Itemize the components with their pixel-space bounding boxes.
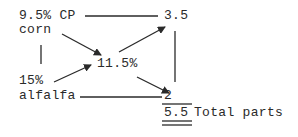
alfalfa-parts-value: 2 — [164, 89, 172, 103]
pearson-square-diagram: 9.5% CP corn 15% alfalfa 11.5% 3.5 2 5.5… — [0, 0, 298, 137]
corn-cp-label: 9.5% CP — [19, 9, 76, 23]
corn-parts-value: 3.5 — [164, 9, 188, 23]
alfalfa-label: alfalfa — [19, 89, 76, 103]
target-cp-label: 11.5% — [97, 57, 138, 71]
corn-label: corn — [19, 23, 51, 37]
total-parts-value: 5.5 — [164, 106, 188, 120]
total-parts-label: Total parts — [194, 106, 283, 120]
arrow-corn-to-target — [62, 34, 101, 55]
alfalfa-pct-label: 15% — [19, 74, 43, 88]
arrow-target-to-corn-parts — [119, 27, 165, 52]
arrow-alfalfa-to-target — [54, 65, 91, 82]
